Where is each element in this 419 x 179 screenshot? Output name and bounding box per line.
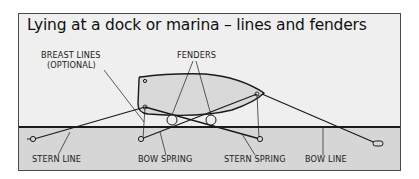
stern-line-leader — [58, 132, 70, 155]
bollard-icon — [257, 136, 262, 141]
fender-icon — [206, 115, 216, 125]
bollard-icon — [30, 136, 35, 141]
breast-line-bow — [257, 94, 259, 139]
bow-spring-leader — [160, 132, 166, 155]
mooring-diagram — [0, 0, 419, 179]
bollard-icon — [138, 136, 143, 141]
fender-icon — [167, 115, 177, 125]
bow-bollard-icon — [373, 141, 383, 146]
stern-line — [34, 107, 145, 139]
bow-line — [262, 94, 378, 144]
